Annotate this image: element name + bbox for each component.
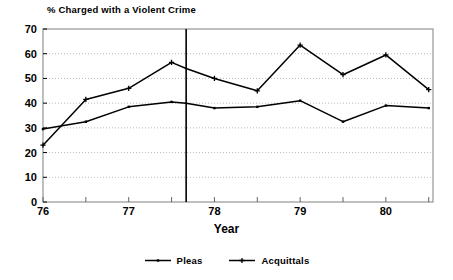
legend-item-pleas[interactable]: Pleas: [144, 255, 203, 266]
x-tick-label: 78: [208, 205, 220, 217]
x-tick-label: 80: [380, 205, 392, 217]
x-tick-label: 79: [294, 205, 306, 217]
chart-figure: % Charged with a Violent Crime 010203040…: [0, 0, 453, 280]
legend-cross-marker-icon: [228, 255, 256, 266]
legend-dot-marker-icon: [144, 255, 172, 266]
chart-legend: PleasAcquittals: [0, 255, 453, 266]
x-tick-label: 76: [37, 205, 49, 217]
legend-item-acquittals[interactable]: Acquittals: [228, 255, 309, 266]
x-axis-tick-labels: 7677787980: [0, 0, 453, 280]
legend-label: Pleas: [177, 255, 203, 266]
x-tick-label: 77: [123, 205, 135, 217]
x-axis-title: Year: [0, 222, 453, 236]
legend-label: Acquittals: [261, 255, 309, 266]
